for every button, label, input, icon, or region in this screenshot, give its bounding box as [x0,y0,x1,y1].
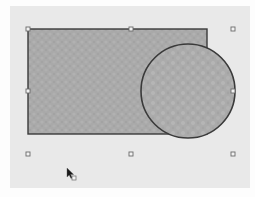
resize-handle-middle-left[interactable] [26,89,30,93]
resize-handle-top-right[interactable] [231,27,235,31]
resize-handle-bottom-center[interactable] [129,152,133,156]
drawing-page [0,0,255,197]
circle-shape[interactable] [141,44,235,138]
shapes-layer [0,0,255,197]
resize-handle-top-left[interactable] [26,27,30,31]
arrow-copy-icon [67,168,76,180]
resize-handle-bottom-left[interactable] [26,152,30,156]
resize-handle-middle-right[interactable] [231,89,235,93]
copy-indicator-icon [72,176,76,180]
resize-handle-bottom-right[interactable] [231,152,235,156]
resize-handle-top-center[interactable] [129,27,133,31]
